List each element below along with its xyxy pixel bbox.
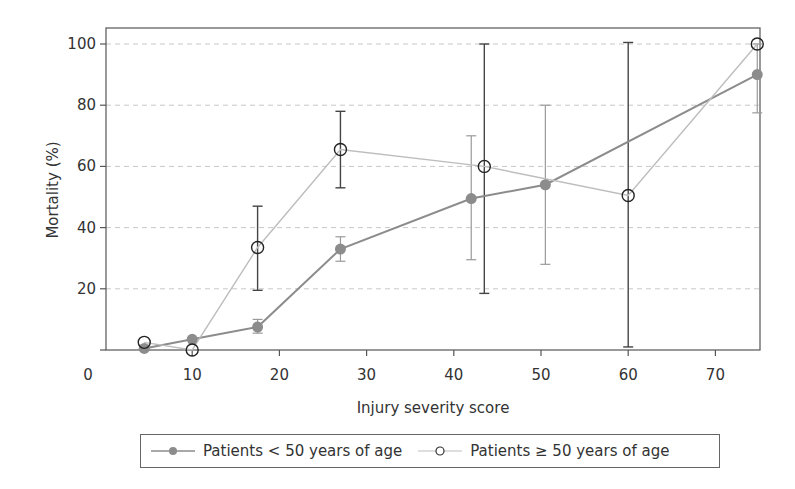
x-tick-label: 30 <box>357 366 376 384</box>
series-line <box>144 75 757 349</box>
x-tick-label: 50 <box>531 366 550 384</box>
y-tick-label: 100 <box>67 35 96 53</box>
data-point-filled <box>752 69 763 80</box>
x-tick-label: 0 <box>83 366 93 384</box>
y-tick-label: 60 <box>77 157 96 175</box>
x-tick-label: 40 <box>444 366 463 384</box>
gridlines <box>106 44 760 289</box>
data-point-filled <box>187 334 198 345</box>
legend-item-50-plus: Patients ≥ 50 years of age <box>416 442 669 460</box>
mortality-chart: 20406080100010203040506070 Injury severi… <box>0 0 795 489</box>
x-tick-label: 20 <box>270 366 289 384</box>
filled-circle-marker-icon <box>149 444 197 458</box>
legend-item-under-50: Patients < 50 years of age <box>149 442 402 460</box>
legend-label-under-50: Patients < 50 years of age <box>203 442 402 460</box>
x-tick-label: 60 <box>619 366 638 384</box>
y-tick-label: 80 <box>77 96 96 114</box>
x-tick-label: 70 <box>706 366 725 384</box>
data-series <box>138 38 763 356</box>
y-tick-label: 20 <box>77 280 96 298</box>
plot-frame <box>106 28 760 350</box>
legend-label-50-plus: Patients ≥ 50 years of age <box>470 442 669 460</box>
data-point-filled <box>335 244 346 255</box>
data-point-filled <box>540 179 551 190</box>
data-point-filled <box>466 193 477 204</box>
legend: Patients < 50 years of age Patients ≥ 50… <box>140 434 720 468</box>
open-circle-marker-icon <box>416 444 464 458</box>
series-line <box>144 44 757 350</box>
x-tick-label: 10 <box>183 366 202 384</box>
x-axis-title: Injury severity score <box>357 399 510 417</box>
axes: 20406080100010203040506070 <box>67 35 725 384</box>
y-tick-label: 40 <box>77 219 96 237</box>
y-axis-title: Mortality (%) <box>44 141 62 238</box>
data-point-filled <box>252 322 263 333</box>
